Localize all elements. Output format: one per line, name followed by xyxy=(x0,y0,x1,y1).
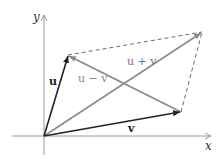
dashed-edge-top xyxy=(68,32,202,55)
label-u-plus-v: u + v xyxy=(127,55,157,68)
derived-vectors xyxy=(44,33,201,136)
label-u-minus-v: u − v xyxy=(78,72,108,85)
y-axis-label: y xyxy=(32,10,40,24)
axes: x y xyxy=(12,10,212,155)
vector-u xyxy=(44,56,68,136)
vector-diagram: x y u v u + v u − v xyxy=(0,0,222,162)
vector-u-plus-v xyxy=(44,33,201,136)
label-v: v xyxy=(127,122,135,135)
x-axis-label: x xyxy=(205,139,212,153)
vector-v xyxy=(44,112,180,136)
label-u: u xyxy=(49,75,57,88)
base-vectors xyxy=(44,56,180,136)
